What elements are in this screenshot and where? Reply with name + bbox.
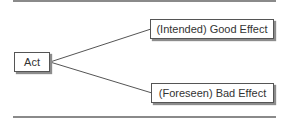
node-good-effect-label: (Intended) Good Effect xyxy=(156,23,267,35)
node-act-label: Act xyxy=(24,56,40,68)
bottom-rule xyxy=(13,116,276,118)
node-act: Act xyxy=(14,52,50,72)
node-bad-effect: (Foreseen) Bad Effect xyxy=(151,83,274,103)
edge-act-to-bad xyxy=(50,62,152,93)
node-bad-effect-label: (Foreseen) Bad Effect xyxy=(159,87,266,99)
node-good-effect: (Intended) Good Effect xyxy=(150,19,274,39)
edge-act-to-good xyxy=(50,29,151,62)
